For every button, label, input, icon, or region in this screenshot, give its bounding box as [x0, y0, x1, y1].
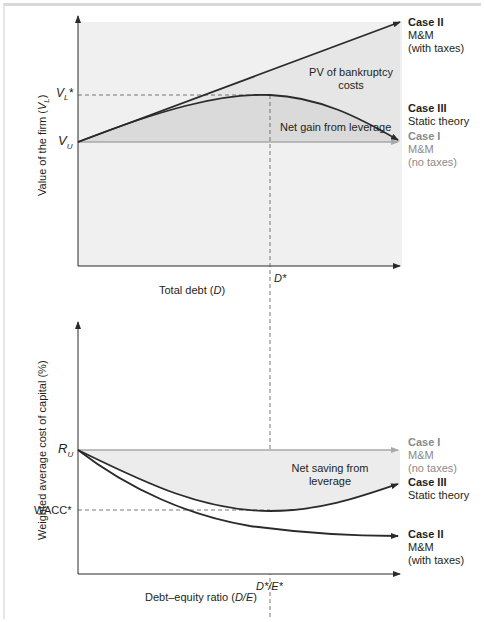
vl-star-tick: VL* — [56, 87, 73, 104]
de-star-tick: D*/E* — [256, 580, 283, 593]
d-star-tick: D* — [274, 272, 286, 285]
top-x-axis-label: Total debt (D) — [159, 284, 225, 297]
net-gain-label: Net gain from leverage — [280, 121, 391, 134]
top-case1-legend: Case IM&M(no taxes) — [408, 130, 457, 169]
top-case3-legend: Case IIIStatic theory — [408, 102, 469, 128]
vu-tick: VU — [58, 134, 72, 153]
pv-bankruptcy-label: PV of bankruptcycosts — [303, 66, 399, 92]
bottom-case3-legend: Case IIIStatic theory — [408, 476, 469, 502]
bottom-x-axis-label: Debt–equity ratio (D/E) — [145, 591, 257, 604]
bottom-case2-legend: Case IIM&M(with taxes) — [408, 528, 464, 567]
bottom-chart — [78, 322, 402, 574]
top-case2-legend: Case IIM&M(with taxes) — [408, 16, 464, 55]
wacc-star-tick: WACC* — [34, 504, 71, 517]
net-saving-label: Net saving fromleverage — [282, 462, 378, 488]
ru-tick: RU — [58, 442, 73, 461]
top-y-axis-label: Value of the firm (VL) — [36, 95, 51, 196]
bottom-case1-legend: Case IM&M(no taxes) — [408, 436, 457, 475]
